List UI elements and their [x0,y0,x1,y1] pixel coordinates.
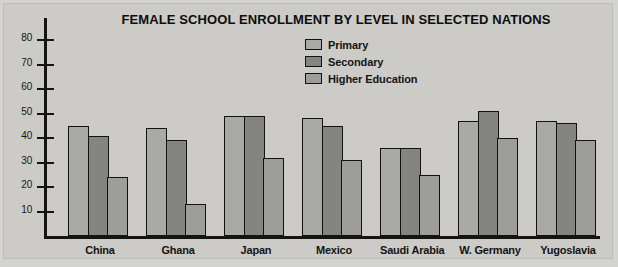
y-tick-label-70: 70 [21,57,32,68]
bar-saudi-arabia-higher-education[interactable] [419,175,440,236]
bar-japan-higher-education[interactable] [263,158,284,236]
bar-saudi-arabia-secondary[interactable] [400,148,421,236]
x-axis-label-w-germany: W. Germany [458,244,522,256]
x-axis-label-china: China [68,244,132,256]
y-tick-label-10: 10 [21,204,32,215]
y-axis-line [44,18,47,239]
bar-ghana-primary[interactable] [146,128,167,236]
bar-yugoslavia-primary[interactable] [536,121,557,236]
bar-ghana-secondary[interactable] [166,140,187,236]
y-tick-10: 10 [37,211,54,213]
y-tick-50: 50 [37,113,54,115]
y-tick-label-30: 30 [21,155,32,166]
bar-group: Japan [224,116,288,236]
bar-ghana-higher-education[interactable] [185,204,206,236]
chart-screenshot: FEMALE SCHOOL ENROLLMENT BY LEVEL IN SEL… [0,0,618,267]
bar-group: W. Germany [458,111,522,236]
bar-yugoslavia-higher-education[interactable] [575,140,596,236]
bar-china-secondary[interactable] [88,136,109,236]
y-tick-30: 30 [37,162,54,164]
bar-group: Saudi Arabia [380,148,444,236]
y-tick-20: 20 [37,186,54,188]
bar-japan-primary[interactable] [224,116,245,236]
y-axis-title: Percentage of females in total enrollmen… [0,0,10,6]
x-axis-label-mexico: Mexico [302,244,366,256]
y-tick-70: 70 [37,64,54,66]
bar-w-germany-secondary[interactable] [478,111,499,236]
x-axis-line [44,236,600,239]
y-tick-40: 40 [37,137,54,139]
y-tick-label-80: 80 [21,32,32,43]
bar-china-higher-education[interactable] [107,177,128,236]
bar-saudi-arabia-primary[interactable] [380,148,401,236]
bar-china-primary[interactable] [68,126,89,236]
x-axis-label-saudi-arabia: Saudi Arabia [380,244,444,256]
bar-group: Mexico [302,118,366,236]
bar-mexico-primary[interactable] [302,118,323,236]
bar-group: China [68,126,132,236]
bar-japan-secondary[interactable] [244,116,265,236]
plot-area: 8070605040302010 ChinaGhanaJapanMexicoSa… [44,18,600,239]
y-tick-label-20: 20 [21,179,32,190]
y-tick-label-60: 60 [21,81,32,92]
y-tick-label-40: 40 [21,130,32,141]
bar-group: Ghana [146,128,210,236]
bar-w-germany-primary[interactable] [458,121,479,236]
y-tick-80: 80 [37,39,54,41]
bar-w-germany-higher-education[interactable] [497,138,518,236]
x-axis-label-ghana: Ghana [146,244,210,256]
x-axis-label-yugoslavia: Yugoslavia [536,244,600,256]
bar-yugoslavia-secondary[interactable] [556,123,577,236]
bar-group: Yugoslavia [536,121,600,236]
x-axis-label-japan: Japan [224,244,288,256]
bar-mexico-secondary[interactable] [322,126,343,236]
y-tick-label-50: 50 [21,106,32,117]
y-tick-60: 60 [37,88,54,90]
bar-mexico-higher-education[interactable] [341,160,362,236]
